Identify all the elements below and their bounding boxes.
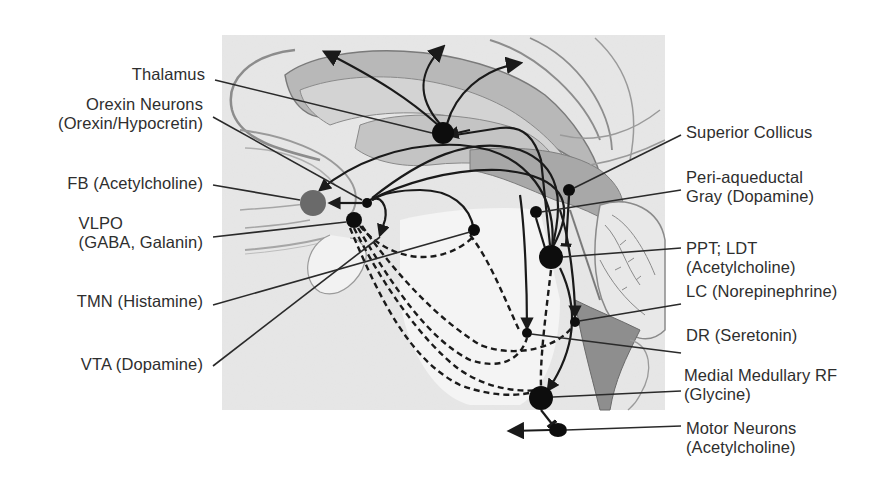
label-motor-neurons: Motor Neurons (Acetylcholine) — [686, 419, 796, 457]
node-orexin — [362, 198, 372, 208]
label-superior-colliculus: Superior Collicus — [686, 123, 812, 142]
node-tmn — [468, 224, 480, 236]
node-ppt-ldt — [539, 245, 563, 269]
label-thalamus: Thalamus — [132, 65, 205, 84]
node-motor-neurons — [549, 423, 567, 437]
node-vlpo — [346, 212, 362, 228]
node-fb — [300, 190, 326, 216]
label-medial-medullary-rf: Medial Medullary RF (Glycine) — [684, 366, 837, 404]
node-thalamus — [432, 122, 454, 144]
leader-motor-neurons — [566, 426, 681, 430]
label-ppt-ldt: PPT; LDT (Acetylcholine) — [686, 239, 796, 277]
label-periaqueductal-gray: Peri-aqueductal Gray (Dopamine) — [686, 168, 814, 206]
node-superior-colliculus — [563, 184, 575, 196]
label-orexin-neurons: Orexin Neurons (Orexin/Hypocretin) — [58, 95, 203, 133]
label-vta: VTA (Dopamine) — [81, 355, 203, 374]
node-dr — [522, 328, 532, 338]
node-lc — [570, 317, 580, 327]
label-lc: LC (Norepinephrine) — [686, 282, 837, 301]
label-tmn: TMN (Histamine) — [77, 292, 203, 311]
node-pag — [530, 206, 542, 218]
label-vlpo: VLPO (GABA, Galanin) — [79, 214, 203, 252]
node-medial-medullary-rf — [529, 386, 553, 410]
label-fb: FB (Acetylcholine) — [67, 174, 203, 193]
label-dr: DR (Seretonin) — [686, 326, 797, 345]
